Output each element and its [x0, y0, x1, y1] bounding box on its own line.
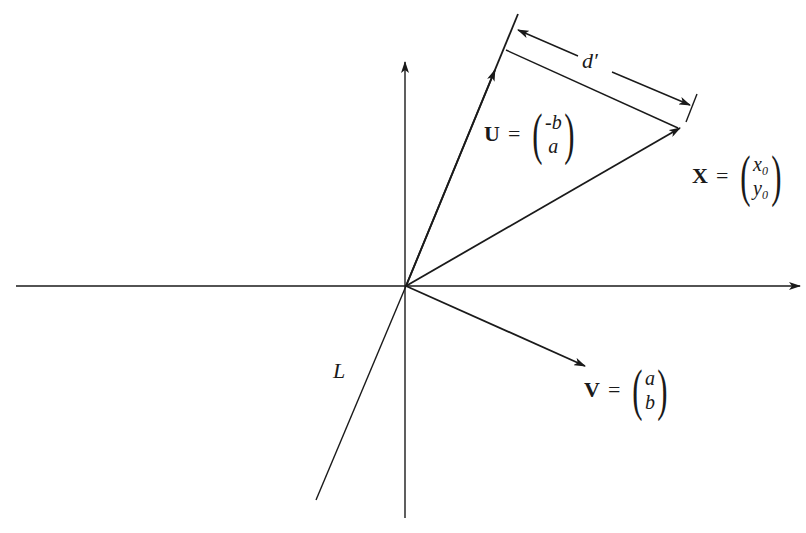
vector-x-name: X — [692, 163, 708, 189]
left-paren: ( — [741, 148, 751, 204]
vector-v-name: V — [584, 377, 600, 403]
right-paren: ) — [657, 362, 667, 418]
dimension-arrow-right — [612, 72, 690, 105]
line-l — [316, 286, 406, 500]
vector-x-component-2: y₀ — [753, 176, 769, 200]
vector-u-arrow — [406, 70, 495, 286]
equals-sign: = — [716, 163, 728, 189]
line-l-label: L — [333, 358, 345, 384]
left-paren: ( — [533, 106, 543, 162]
vector-x-equation: X = ( x₀ y₀ ) — [692, 148, 785, 204]
vector-v — [406, 286, 585, 366]
vector-v-component-1: a — [645, 366, 655, 390]
right-paren: ) — [771, 148, 781, 204]
vector-u-name: U — [484, 121, 500, 147]
vector-v-equation: V = ( a b ) — [584, 362, 672, 418]
distance-label: d′ — [582, 48, 598, 74]
vector-v-component-2: b — [645, 390, 655, 414]
dimension-tick-right — [686, 94, 697, 122]
vector-x-component-1: x₀ — [753, 152, 769, 176]
vector-u-equation: U = ( -b a ) — [484, 106, 578, 162]
right-paren: ) — [564, 106, 574, 162]
dimension-arrow-left — [518, 30, 578, 56]
vector-u-component-1: -b — [545, 110, 562, 134]
vector-u-components: -b a — [545, 110, 562, 158]
equals-sign: = — [608, 377, 620, 403]
vector-x-components: x₀ y₀ — [753, 152, 769, 200]
vector-u-component-2: a — [548, 134, 558, 158]
diagram-canvas — [0, 0, 806, 533]
equals-sign: = — [508, 121, 520, 147]
left-paren: ( — [633, 362, 643, 418]
vector-v-components: a b — [645, 366, 655, 414]
